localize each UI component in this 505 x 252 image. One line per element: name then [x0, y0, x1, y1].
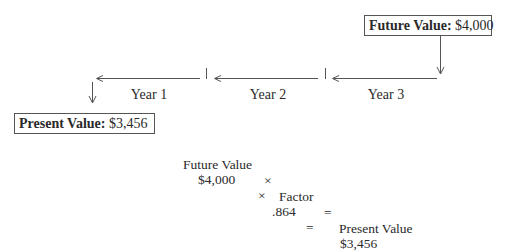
year-1-arrow — [97, 76, 201, 82]
year-2-label: Year 2 — [228, 87, 308, 103]
future-value-amount: $4,000 — [455, 18, 494, 33]
formula-value-factor: .864 — [272, 204, 296, 220]
present-value-down-arrow — [89, 82, 96, 103]
present-value-box: Present Value: $3,456 — [14, 113, 155, 134]
formula-equals-symbol-2: = — [306, 220, 314, 236]
future-value-down-arrow — [437, 36, 444, 74]
formula-times-symbol-2: × — [258, 188, 266, 204]
present-value-label: Present Value: — [19, 116, 105, 131]
formula-value-future: $4,000 — [198, 172, 235, 188]
year-2-arrow — [215, 76, 319, 82]
year-1-label: Year 1 — [109, 87, 189, 103]
year-3-arrow — [333, 76, 438, 82]
future-value-box: Future Value: $4,000 — [364, 15, 492, 36]
formula-line-2: $4,000 × .864 = $3,456 — [0, 156, 505, 252]
future-value-label: Future Value: — [369, 18, 452, 33]
formula-value-present: $3,456 — [340, 236, 377, 252]
year-3-label: Year 3 — [346, 87, 426, 103]
present-value-amount: $3,456 — [109, 116, 148, 131]
